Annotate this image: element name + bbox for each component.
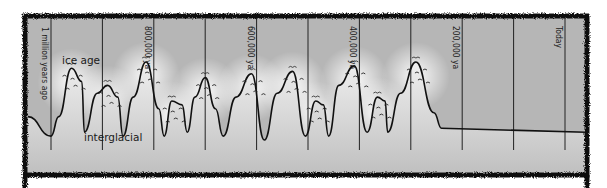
interglacial-label: interglacial: [84, 131, 142, 143]
time-marker-label: 800,000 ya: [143, 26, 153, 69]
ice-age-label: ice age: [62, 54, 100, 66]
time-marker-label: 600,000 ya: [246, 26, 256, 69]
time-marker-label: 200,000 ya: [451, 26, 461, 69]
time-marker-label: 1 million years ago: [40, 27, 50, 100]
time-marker-label: Today: [554, 25, 564, 48]
glacial-cycles-diagram: 1 million years ago800,000 ya600,000 ya4…: [0, 0, 607, 188]
time-marker-label: 400,000 ya: [348, 26, 358, 69]
